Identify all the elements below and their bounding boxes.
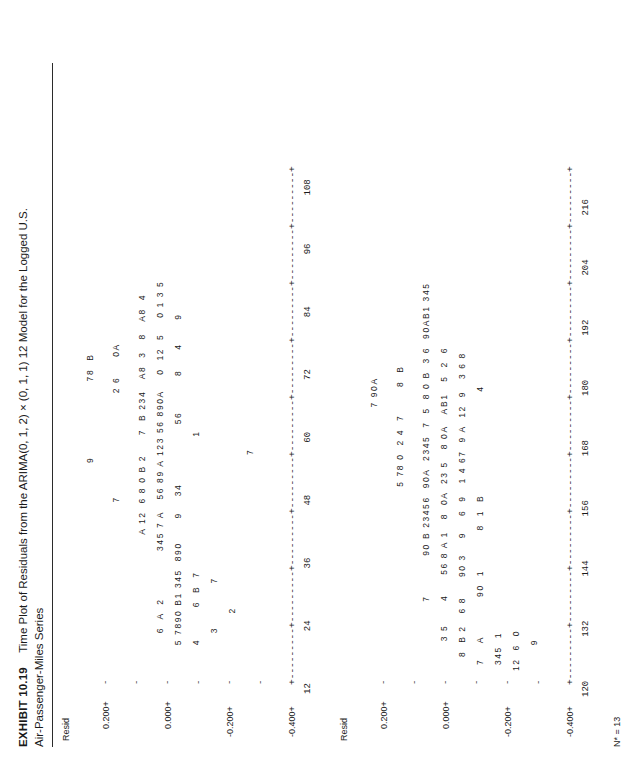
exhibit-number: EXHIBIT 10.19: [17, 667, 29, 747]
panel-top-ygrid-2: -: [164, 680, 173, 685]
panel-bottom-glyphs-row-6: 7 A 90 1 8 1 B 4: [476, 385, 485, 669]
panel-bottom-glyphs-row-4: 3 5 4 56 8 A 1 8 0A 23 5 8 0A AB1 5 2 6: [440, 347, 449, 669]
panel-bottom-ygrid-2: -: [442, 680, 451, 685]
panel-top-ygrid-3: -: [195, 680, 204, 685]
panel-top-xtick-8: 108: [303, 179, 313, 195]
panel-bottom-xtick-5: 180: [581, 380, 591, 396]
panel-bottom: Resid 0.200+ 0.000+ -0.200+ -0.400+ - - …: [340, 57, 605, 747]
panel-bottom-xtick-2: 144: [581, 560, 591, 576]
panel-top-xtick-4: 60: [303, 432, 313, 443]
panel-bottom-ylabel: Resid: [340, 718, 349, 741]
panel-top-xtick-0: 12: [303, 683, 313, 694]
panel-bottom-ytick-2: -0.200+: [504, 706, 513, 737]
exhibit-title: Time Plot of Residuals from the ARIMA(0,…: [17, 208, 29, 653]
panel-top-ygrid-0: -: [102, 680, 111, 685]
panel-top-ylabel: Resid: [62, 718, 71, 741]
panel-top-ytick-1: 0.000+: [164, 701, 173, 729]
panel-top-xtick-6: 84: [303, 306, 313, 317]
panel-bottom-xtick-1: 132: [581, 621, 591, 637]
panel-bottom-xaxis: +---------+---------+---------+---------…: [566, 166, 575, 685]
panel-bottom-glyphs-row-8: 12 6 0: [512, 630, 521, 671]
exhibit-title-line2: Air-Passenger-Miles Series: [32, 47, 47, 747]
panel-top-xticks: 1224364860728496108: [304, 179, 313, 694]
panel-top-glyphs-row-3: A 12 6 8 0 B 2 7 B 234 A8 3 8 A8 4: [138, 294, 147, 669]
panel-top-glyphs-row-5: 5 7890 B1 345 890 9 34 56 8 4 9: [174, 313, 183, 669]
panel-bottom-ygrid-1: -: [411, 680, 420, 685]
panel-top-glyphs-row-8: 2: [228, 607, 237, 669]
panel-bottom-ytick-3: -0.400+: [566, 706, 575, 737]
panel-bottom-ygrid-4: -: [504, 680, 513, 685]
panel-top-xtick-5: 72: [303, 369, 313, 380]
panel-bottom-ygrid-5: -: [535, 680, 544, 685]
panel-top-glyphs-row-4: 6 A 2 345 7 A 56 89 A 123 56 890A 0 12 5…: [156, 281, 165, 669]
panel-top-glyphs-row-6: 4 6 B 7 1: [192, 430, 201, 669]
panel-top-glyphs-row-1: 9 78 B: [86, 354, 95, 669]
panel-top-glyphs-row-7: 3 7: [210, 577, 219, 669]
panel-bottom-ygrid-0: -: [380, 680, 389, 685]
exhibit-header: EXHIBIT 10.19 Time Plot of Residuals fro…: [16, 47, 47, 747]
panel-top-xtick-2: 36: [303, 558, 313, 569]
panel-bottom-glyphs-row-7: 345 1: [494, 632, 503, 669]
panel-top-glyphs-row-2: 7 2 6 0A: [112, 343, 121, 669]
panel-bottom-glyphs-row-3: 7 90 B 23456 90A 2345 7 5 8 0 B 3 6 90AB…: [422, 282, 431, 669]
panel-bottom-xtick-6: 192: [581, 320, 591, 336]
panel-top-xtick-3: 48: [303, 495, 313, 506]
panel-bottom-glyphs-row-5: 8 B 2 6 8 90 3 9 6 9 1 4 67 9 A 12 9 3 6…: [458, 352, 467, 669]
panel-top-xaxis: +---------+---------+---------+---------…: [288, 166, 297, 685]
panel-bottom-xtick-8: 216: [581, 199, 591, 215]
panel-bottom-glyphs-row-1: 7 90A: [370, 377, 379, 669]
panel-top-ytick-3: -0.400+: [288, 706, 297, 737]
panel-bottom-xtick-7: 204: [581, 259, 591, 275]
panel-bottom-xtick-3: 156: [581, 500, 591, 516]
panel-top-ygrid-5: -: [257, 680, 266, 685]
panel-top-ytick-2: -0.200+: [226, 706, 235, 737]
panel-top-ytick-0: 0.200+: [102, 701, 111, 729]
panel-top: Resid 0.200+ 0.000+ -0.200+ -0.400+ - - …: [62, 57, 327, 747]
panel-bottom-ytick-1: 0.000+: [442, 701, 451, 729]
nstar-label: N* = 13: [612, 717, 622, 747]
panel-bottom-xticks: 120132144156168180192204216: [582, 199, 591, 697]
exhibit-root: EXHIBIT 10.19 Time Plot of Residuals fro…: [0, 0, 644, 777]
panel-bottom-glyphs-row-2: 5 78 0 2 4 7 8 B: [396, 365, 405, 669]
panel-bottom-xtick-0: 120: [581, 681, 591, 697]
panel-bottom-ygrid-3: -: [473, 680, 482, 685]
panel-bottom-ytick-0: 0.200+: [380, 701, 389, 729]
panel-bottom-xtick-4: 168: [581, 440, 591, 456]
panel-top-xtick-7: 96: [303, 244, 313, 255]
panel-top-ygrid-1: -: [133, 680, 142, 685]
panel-top-xtick-1: 24: [303, 620, 313, 631]
panel-bottom-glyphs-row-9: 9: [530, 639, 539, 669]
panel-top-glyphs-row-10: 7: [246, 449, 255, 669]
panel-top-ygrid-4: -: [226, 680, 235, 685]
header-rule: [52, 63, 53, 747]
